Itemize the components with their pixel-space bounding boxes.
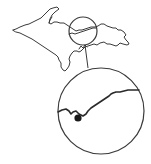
map-canvas [0,0,151,164]
locator-map: Upper Peninsula locator map [0,0,151,164]
location-dot [74,114,81,121]
connector-line [85,45,88,68]
inset-coastline [58,90,139,116]
inset-circle [58,68,144,154]
